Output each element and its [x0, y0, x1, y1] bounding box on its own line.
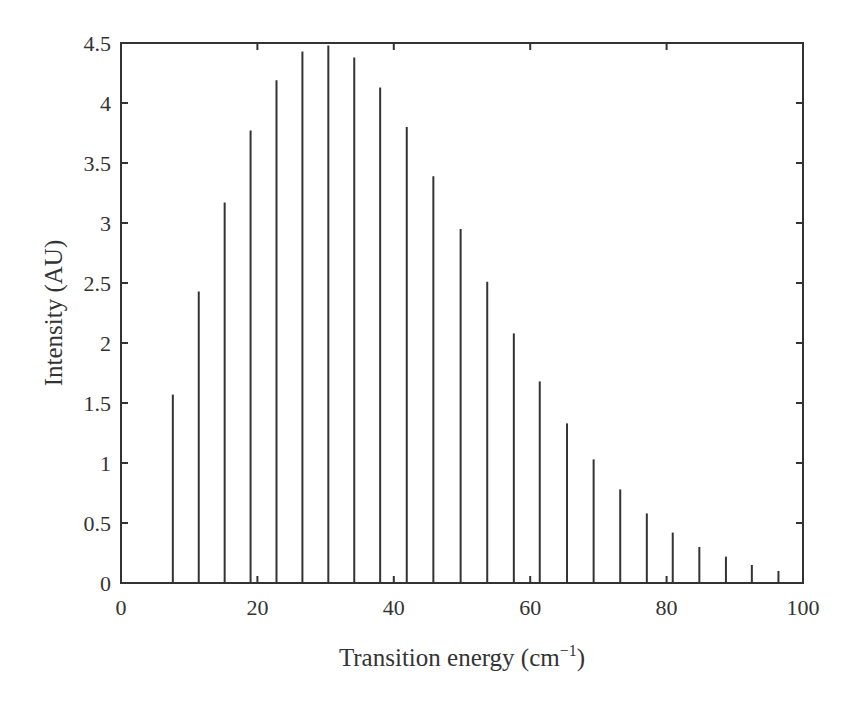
stick-spectrum-chart: 020406080100 00.511.522.533.544.5 Transi…: [0, 0, 865, 705]
y-axis-label: Intensity (AU): [40, 240, 68, 387]
axis-ticks: [121, 43, 803, 583]
x-tick-label: 0: [116, 595, 127, 620]
x-tick-label: 40: [383, 595, 405, 620]
y-tick-label: 2: [100, 331, 111, 356]
x-axis-label: Transition energy (cm−1): [339, 642, 585, 672]
y-tick-label: 1: [100, 451, 111, 476]
x-tick-label: 100: [787, 595, 820, 620]
y-tick-label: 2.5: [84, 271, 112, 296]
y-tick-label: 1.5: [84, 391, 112, 416]
spectrum-sticks: [173, 45, 779, 583]
y-tick-label: 3.5: [84, 151, 112, 176]
x-tick-label: 20: [246, 595, 268, 620]
y-tick-label: 0: [100, 571, 111, 596]
y-tick-label: 0.5: [84, 511, 112, 536]
x-tick-labels: 020406080100: [116, 595, 820, 620]
x-tick-label: 60: [519, 595, 541, 620]
y-tick-labels: 00.511.522.533.544.5: [84, 31, 112, 596]
plot-area-frame: [121, 43, 803, 583]
x-tick-label: 80: [656, 595, 678, 620]
y-tick-label: 4: [100, 91, 111, 116]
y-tick-label: 4.5: [84, 31, 112, 56]
y-tick-label: 3: [100, 211, 111, 236]
